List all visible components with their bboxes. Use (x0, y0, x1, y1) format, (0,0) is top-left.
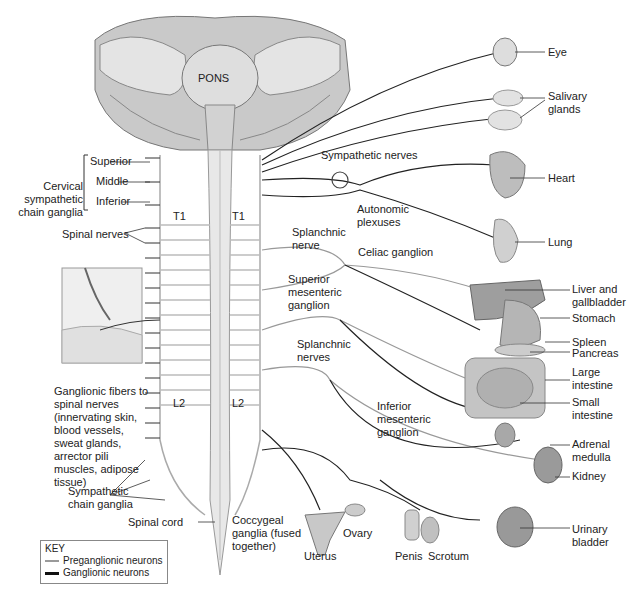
organ-label-stomach: Stomach (572, 312, 615, 325)
preganglionic-label: Preganglionic neurons (63, 555, 163, 567)
cervical-chain-label: Cervical sympathetic chain ganglia (15, 180, 83, 219)
sympathetic-chain-ganglia-label: Sympathetic chain ganglia (68, 485, 138, 511)
key-title: KEY (45, 543, 163, 555)
organ-label-pancreas: Pancreas (572, 347, 618, 360)
splanchnic-nerves-label: Splanchnic nerves (297, 338, 352, 364)
organ-label-bladder: Urinary bladder (572, 523, 627, 549)
t1-left-label: T1 (173, 210, 186, 223)
pons-label: PONS (198, 72, 229, 85)
organ-label-ovary: Ovary (343, 527, 372, 540)
cervical-bracket (84, 155, 88, 210)
l2-right-label: L2 (232, 397, 244, 410)
celiac-ganglion-label: Celiac ganglion (358, 246, 433, 259)
legend-key: KEY Preganglionic neurons Ganglionic neu… (40, 540, 168, 584)
organ-label-lung: Lung (548, 236, 572, 249)
cervical-inferior-label: Inferior (96, 195, 130, 208)
ganglionic-swatch (45, 572, 59, 575)
l2-left-label: L2 (173, 397, 185, 410)
key-item-preganglionic: Preganglionic neurons (45, 555, 163, 567)
sympathetic-nerves-label: Sympathetic nerves (321, 149, 418, 162)
spinal-cord (208, 150, 232, 575)
organ-label-penis: Penis (395, 550, 423, 563)
organ-label-liver: Liver and gallbladder (572, 283, 632, 309)
cervical-superior-label: Superior (90, 155, 132, 168)
key-item-ganglionic: Ganglionic neurons (45, 567, 163, 579)
superior-mesenteric-ganglion-label: Superior mesenteric ganglion (288, 273, 350, 312)
spinal-cord-label: Spinal cord (128, 516, 183, 529)
ganglionic-label: Ganglionic neurons (63, 567, 149, 579)
t1-right-label: T1 (232, 210, 245, 223)
organ-label-adrenal: Adrenal medulla (572, 438, 627, 464)
inferior-mesenteric-ganglion-label: Inferior mesenteric ganglion (377, 400, 439, 439)
organ-label-uterus: Uterus (304, 550, 336, 563)
organ-label-scrotum: Scrotum (428, 550, 469, 563)
ganglionic-fibers-label: Ganglionic fibers to spinal nerves (inne… (54, 385, 154, 489)
organ-label-large-intestine: Large intestine (572, 366, 627, 392)
preganglionic-swatch (45, 560, 59, 562)
coccygeal-ganglia-label: Coccygeal ganglia (fused together) (232, 514, 312, 553)
spinal-nerves-label: Spinal nerves (62, 228, 129, 241)
skin-inset (62, 268, 160, 363)
organ-label-eye: Eye (548, 46, 567, 59)
organ-label-salivary: Salivary glands (548, 90, 598, 116)
autonomic-plexuses-label: Autonomic plexuses (357, 203, 422, 229)
splanchnic-nerve-label: Splanchnic nerve (292, 226, 347, 252)
organ-label-kidney: Kidney (572, 470, 606, 483)
cervical-middle-label: Middle (96, 175, 128, 188)
organ-label-small-intestine: Small intestine (572, 396, 627, 422)
organ-label-heart: Heart (548, 172, 575, 185)
